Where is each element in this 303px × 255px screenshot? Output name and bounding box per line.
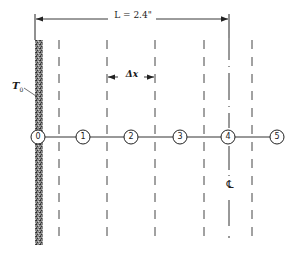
node-4-label-box: 4 (221, 131, 235, 143)
delta-x-label: Δx (126, 69, 138, 79)
node-4-label: 4 (225, 132, 230, 141)
node-0-label: 0 (35, 132, 40, 141)
length-label: L = 2.4" (114, 10, 152, 20)
node-3-label: 3 (177, 132, 182, 141)
node-2-label: 2 (128, 132, 133, 141)
wall-temp-label-box: T0 (12, 80, 34, 96)
node-3-label-box: 3 (173, 131, 187, 143)
centerline-symbol-box: ℄ (220, 178, 240, 196)
node-2-label-box: 2 (124, 131, 138, 143)
node-0-label-box: 0 (31, 131, 45, 143)
wall-temp-subscript: 0 (19, 86, 23, 93)
delta-x-label-box: Δx (117, 69, 147, 85)
node-1-label-box: 1 (76, 131, 90, 143)
node-5-label-box: 5 (270, 131, 284, 143)
centerline-symbol: ℄ (226, 178, 233, 191)
diagram-canvas: L = 2.4" T0 Δx (0, 0, 303, 255)
node-1-label: 1 (80, 132, 85, 141)
node-5-label: 5 (274, 132, 279, 141)
length-label-box: L = 2.4" (108, 10, 158, 26)
